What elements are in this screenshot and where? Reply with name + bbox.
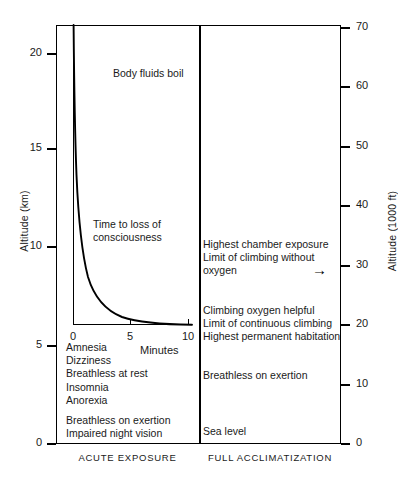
inset-tick-label: 10	[176, 330, 200, 342]
right-tick-label: 70	[356, 20, 368, 32]
left-axis-title: Altitude (km)	[18, 171, 30, 271]
right-tick-mark	[341, 86, 350, 88]
left-tick-mark	[47, 148, 56, 150]
inset-tick-mark	[188, 319, 189, 325]
right-tick-label: 60	[356, 79, 368, 91]
right-tick-mark	[341, 324, 350, 326]
right-tick-mark	[341, 205, 350, 207]
caption-full-acclimatization: FULL ACCLIMATIZATION	[199, 452, 341, 463]
right-tick-label: 10	[356, 377, 368, 389]
annotation-acute-breathless-group: Breathless on exertion Impaired night vi…	[66, 414, 170, 440]
left-tick-label: 0	[14, 436, 42, 448]
annotation-sea-level: Sea level	[203, 425, 246, 438]
inset-x-axis	[73, 324, 192, 325]
right-tick-mark	[341, 265, 350, 267]
caption-acute-exposure: ACUTE EXPOSURE	[56, 452, 199, 463]
annotation-breathless-on-exertion: Breathless on exertion	[203, 369, 307, 382]
inset-tick-mark	[73, 319, 74, 325]
right-arrow-icon: →	[312, 262, 327, 277]
left-tick-mark	[47, 246, 56, 248]
right-tick-label: 50	[356, 139, 368, 151]
right-tick-label: 30	[356, 258, 368, 270]
left-tick-mark	[47, 53, 56, 55]
annotation-acute-insomnia-group: Insomnia Anorexia	[66, 381, 109, 407]
annotation-highest-chamber-exposure: Highest chamber exposure Limit of climbi…	[203, 238, 328, 278]
panel-divider	[199, 25, 201, 444]
annotation-climbing-oxygen-helpful: Climbing oxygen helpful Limit of continu…	[203, 304, 340, 344]
annotation-time-to-loss-of-consciousness: Time to loss of consciousness	[93, 218, 162, 244]
left-tick-mark	[47, 345, 56, 347]
left-tick-mark	[47, 443, 56, 445]
right-tick-mark	[341, 27, 350, 29]
right-tick-label: 0	[356, 436, 362, 448]
right-tick-label: 40	[356, 198, 368, 210]
left-tick-label: 20	[14, 46, 42, 58]
annotation-body-fluids-boil: Body fluids boil	[113, 67, 184, 80]
inset-y-axis	[73, 25, 74, 325]
right-tick-mark	[341, 443, 350, 445]
left-tick-label: 5	[14, 338, 42, 350]
annotation-acute-amnesia-group: Amnesia Dizziness Breathless at rest	[66, 341, 148, 381]
right-tick-mark	[341, 146, 350, 148]
inset-tick-mark	[130, 319, 131, 325]
right-tick-mark	[341, 384, 350, 386]
left-tick-label: 15	[14, 141, 42, 153]
left-tick-label: 10	[14, 239, 42, 251]
right-tick-label: 20	[356, 317, 368, 329]
right-axis-title: Altitude (1000 ft)	[386, 176, 398, 286]
